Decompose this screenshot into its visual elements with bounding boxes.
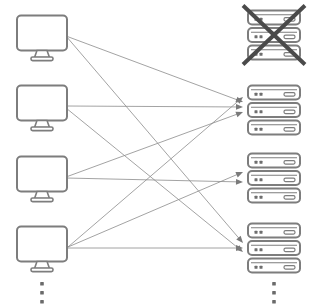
monitor-icon[interactable]: Client 3 — [17, 157, 67, 202]
monitor-stand-base — [31, 127, 53, 131]
server-led-icon — [260, 231, 263, 234]
server-led-icon — [255, 266, 258, 269]
monitor-stand-base — [31, 57, 53, 61]
ellipsis-dot — [40, 282, 44, 286]
connection-arrow — [68, 97, 243, 247]
server-led-icon — [260, 178, 263, 181]
server-drive-slot — [284, 248, 295, 251]
connection-line — [68, 101, 239, 247]
server-led-icon — [260, 196, 263, 199]
server-rack-icon[interactable]: Server 4 — [248, 224, 300, 273]
monitor-screen — [21, 90, 63, 117]
monitor-screen — [21, 161, 63, 188]
ellipsis-dot — [272, 282, 276, 286]
server-drive-slot — [284, 93, 295, 96]
monitor-icon[interactable]: Client 2 — [17, 86, 67, 131]
server-led-icon — [255, 231, 258, 234]
connection-line — [66, 178, 237, 182]
server-led-icon — [255, 248, 258, 251]
monitor-stand-base — [31, 268, 53, 272]
server-led-icon — [255, 128, 258, 131]
ellipsis-dot — [40, 300, 44, 304]
arrow-head-icon — [236, 179, 243, 185]
connection-line — [68, 174, 238, 247]
connection-arrow — [66, 36, 243, 243]
connection-arrow — [66, 104, 243, 110]
server-led-icon — [255, 110, 258, 113]
connection-arrow — [68, 245, 243, 251]
server-led-icon — [260, 53, 263, 56]
server-drive-slot — [284, 128, 295, 131]
server-led-icon — [255, 196, 258, 199]
connection-arrow — [68, 172, 243, 247]
connection-line — [66, 108, 239, 248]
server-led-icon — [255, 178, 258, 181]
servers-ellipsis — [272, 282, 276, 304]
network-diagram: Client 1Client 2Client 3Client 4 Server … — [0, 0, 311, 308]
server-drive-slot — [284, 110, 295, 113]
servers-layer: Server 1Server 2Server 3Server 4 — [243, 6, 305, 273]
ellipsis-dot — [272, 300, 276, 304]
server-led-icon — [260, 266, 263, 269]
arrow-head-icon — [235, 172, 243, 177]
server-drive-slot — [284, 161, 295, 164]
server-led-icon — [260, 248, 263, 251]
server-led-icon — [260, 161, 263, 164]
server-led-icon — [260, 35, 263, 38]
connection-arrow — [66, 36, 243, 102]
monitor-stand-base — [31, 198, 53, 202]
server-led-icon — [255, 35, 258, 38]
monitor-icon[interactable]: Client 1 — [17, 16, 67, 61]
connection-line — [66, 36, 239, 239]
server-led-icon — [260, 93, 263, 96]
monitor-screen — [21, 20, 63, 47]
server-rack-icon[interactable]: Server 2 — [248, 86, 300, 135]
server-drive-slot — [284, 178, 295, 181]
server-drive-slot — [284, 196, 295, 199]
server-led-icon — [255, 93, 258, 96]
server-drive-slot — [284, 231, 295, 234]
monitor-screen — [21, 231, 63, 258]
clients-ellipsis — [40, 282, 44, 304]
edges-layer — [66, 36, 243, 252]
server-led-icon — [255, 161, 258, 164]
server-rack-icon[interactable]: Server 1 — [243, 6, 305, 65]
server-rack-icon[interactable]: Server 3 — [248, 154, 300, 203]
clients-layer: Client 1Client 2Client 3Client 4 — [17, 16, 67, 272]
connection-arrow — [66, 112, 243, 177]
ellipsis-dot — [40, 291, 44, 295]
server-led-icon — [260, 110, 263, 113]
connection-line — [66, 106, 237, 107]
monitor-icon[interactable]: Client 4 — [17, 227, 67, 272]
server-drive-slot — [284, 266, 295, 269]
ellipsis-dot — [272, 291, 276, 295]
diagram-root: Client 1Client 2Client 3Client 4 Server … — [0, 0, 311, 308]
arrow-head-icon — [236, 104, 243, 110]
ellipsis-layer — [40, 282, 276, 304]
server-drive-slot — [284, 35, 295, 38]
arrow-head-icon — [235, 112, 243, 117]
connection-line — [66, 36, 238, 100]
server-led-icon — [260, 128, 263, 131]
